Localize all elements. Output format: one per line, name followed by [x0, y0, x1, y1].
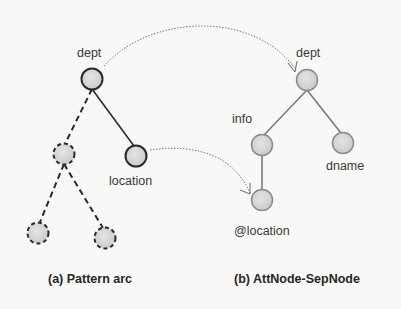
mapping-arrow-dept [104, 26, 297, 72]
right-edges [262, 90, 341, 190]
left-node-dashed-grandchild-right [95, 228, 116, 249]
right-node-location [252, 190, 273, 211]
mapping-arrow-location [150, 148, 250, 194]
tree-diagram [0, 0, 401, 309]
right-node-dname [333, 133, 354, 154]
right-node-dept [297, 70, 318, 91]
left-node-dashed-child [54, 144, 75, 165]
left-label-dept: dept [77, 47, 101, 60]
caption-attnode-sepnode: (b) AttNode-SepNode [234, 273, 360, 286]
right-label-dname: dname [326, 160, 364, 173]
left-label-location: location [109, 175, 152, 188]
right-label-location: @location [234, 225, 290, 238]
left-node-dept [82, 69, 103, 90]
caption-pattern-arc: (a) Pattern arc [48, 273, 132, 286]
right-label-info: info [232, 113, 252, 126]
right-label-dept: dept [296, 47, 320, 60]
left-node-dashed-grandchild-left [28, 223, 49, 244]
right-node-info [252, 135, 273, 156]
left-node-location [126, 146, 147, 167]
diagram-canvas: dept location dept info dname @location … [0, 0, 401, 309]
